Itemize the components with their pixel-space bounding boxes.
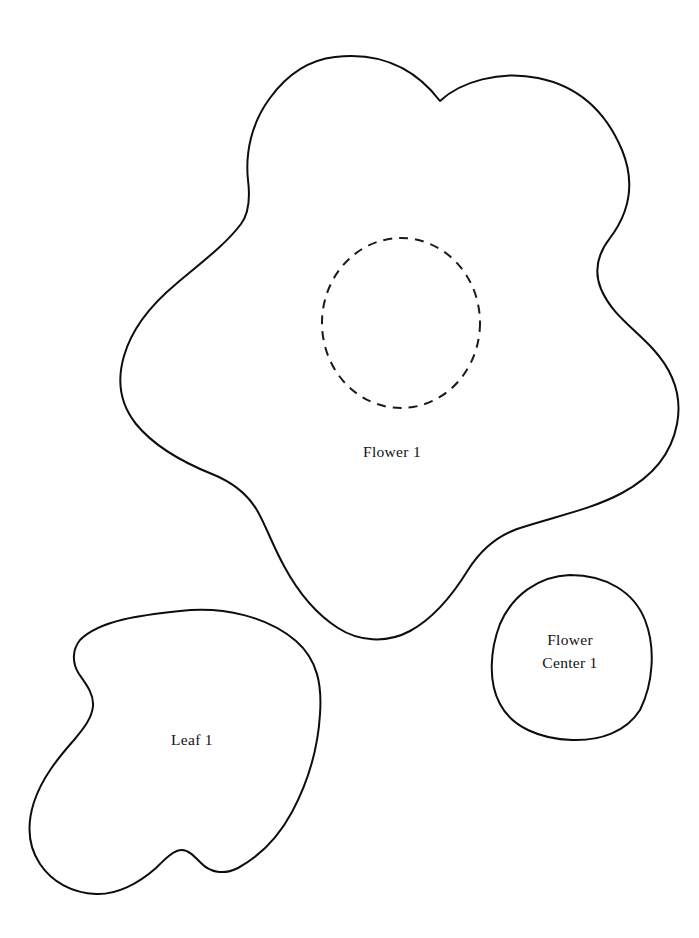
sheet-background <box>0 0 699 938</box>
leaf-label: Leaf 1 <box>171 731 213 748</box>
pattern-sheet: Flower 1 Leaf 1 Flower Center 1 <box>0 0 699 938</box>
flower-center-label-line-2: Center 1 <box>542 654 597 671</box>
flower-center-label-line-1: Flower <box>547 631 593 648</box>
flower-label: Flower 1 <box>363 443 421 460</box>
